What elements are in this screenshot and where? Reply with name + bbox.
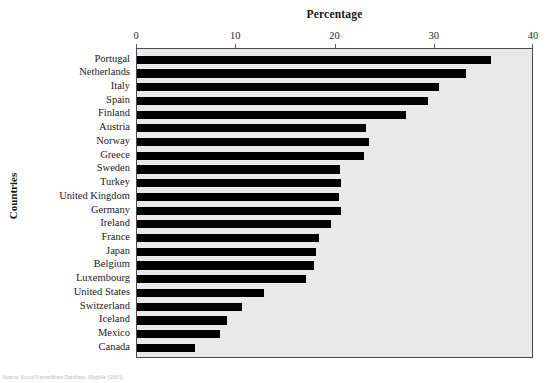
bar-chart-figure: Percentage Countries 010203040 PortugalN… <box>0 0 558 383</box>
bar <box>137 330 220 338</box>
bar-row <box>137 67 532 81</box>
x-tick-label: 10 <box>230 30 241 41</box>
x-tick-label: 20 <box>329 30 340 41</box>
category-label: Luxembourg <box>76 272 130 283</box>
bar-row <box>137 135 532 149</box>
bar <box>137 193 339 201</box>
bar-row <box>137 163 532 177</box>
bar-row <box>137 245 532 259</box>
x-tick-label: 30 <box>429 30 440 41</box>
bar <box>137 83 439 91</box>
bar-row <box>137 341 532 355</box>
bar <box>137 165 340 173</box>
category-label: Belgium <box>94 258 130 269</box>
bar-row <box>137 190 532 204</box>
bar-row <box>137 218 532 232</box>
bar <box>137 179 341 187</box>
bar-row <box>137 122 532 136</box>
category-label: Portugal <box>94 53 130 64</box>
bar <box>137 220 331 228</box>
bar <box>137 275 306 283</box>
bar-row <box>137 286 532 300</box>
x-tick-label: 40 <box>528 30 539 41</box>
category-label: United Kingdom <box>59 190 130 201</box>
category-axis-labels: PortugalNetherlandsItalySpainFinlandAust… <box>0 48 133 358</box>
bar-row <box>137 94 532 108</box>
category-label: Spain <box>106 94 130 105</box>
bar <box>137 248 316 256</box>
bar <box>137 344 195 352</box>
bar-row <box>137 149 532 163</box>
bar-row <box>137 53 532 67</box>
bar <box>137 97 428 105</box>
category-label: Sweden <box>97 162 130 173</box>
bar <box>137 207 341 215</box>
category-label: Mexico <box>98 327 130 338</box>
bar <box>137 152 364 160</box>
category-label: Finland <box>98 107 130 118</box>
category-label: Norway <box>96 135 130 146</box>
bar <box>137 316 227 324</box>
x-axis: 010203040 <box>136 30 533 48</box>
category-label: Netherlands <box>79 66 130 77</box>
category-label: United States <box>74 286 130 297</box>
footnote: Source: Social Expenditure Database, ill… <box>2 374 432 381</box>
bar <box>137 111 406 119</box>
category-label: Ireland <box>100 217 130 228</box>
category-label: Iceland <box>99 313 130 324</box>
bar-row <box>137 81 532 95</box>
category-label: France <box>101 231 130 242</box>
bar-row <box>137 259 532 273</box>
category-label: Italy <box>111 80 130 91</box>
category-label: Germany <box>91 204 130 215</box>
bar <box>137 56 491 64</box>
category-label: Greece <box>100 149 130 160</box>
category-label: Turkey <box>100 176 130 187</box>
category-label: Canada <box>99 341 131 352</box>
bar <box>137 234 319 242</box>
bar <box>137 303 242 311</box>
bar <box>137 289 264 297</box>
bar <box>137 69 466 77</box>
category-label: Switzerland <box>80 300 130 311</box>
bar-row <box>137 300 532 314</box>
bar-row <box>137 327 532 341</box>
bar-row <box>137 177 532 191</box>
category-label: Japan <box>106 245 130 256</box>
category-label: Austria <box>99 121 130 132</box>
plot-area <box>136 48 533 358</box>
bar-row <box>137 204 532 218</box>
bar <box>137 138 369 146</box>
bar <box>137 124 366 132</box>
bar-row <box>137 231 532 245</box>
bar-row <box>137 273 532 287</box>
bar <box>137 261 314 269</box>
bar-row <box>137 314 532 328</box>
x-tick-label: 0 <box>133 30 138 41</box>
chart-title: Percentage <box>136 8 533 20</box>
bar-row <box>137 108 532 122</box>
